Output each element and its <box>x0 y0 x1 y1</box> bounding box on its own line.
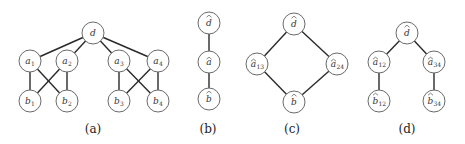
nodes-layer: da1a2a3a4b1b2b3b4dabda13a24bda12a34b12b3… <box>19 12 445 113</box>
node-label: a <box>62 56 67 66</box>
node-subscript: 2 <box>68 60 72 67</box>
node-subscript: 34 <box>434 61 442 68</box>
node-a13: a13 <box>246 53 268 75</box>
node-a4: a4 <box>147 50 169 72</box>
graph-diagram: da1a2a3a4b1b2b3b4dabda13a24bda12a34b12b3… <box>0 0 465 144</box>
node-a2: a2 <box>56 50 78 72</box>
panel-c-nodes: da13a24b <box>246 13 348 113</box>
panel-b-nodes: dab <box>198 12 220 110</box>
node-a1: a1 <box>19 50 41 72</box>
node-label: d <box>291 19 297 29</box>
panel-d-nodes: da12a34b12b34 <box>368 22 445 112</box>
node-label: a <box>153 56 158 66</box>
node-label: a <box>114 56 119 66</box>
node-d: d <box>198 12 220 34</box>
node-b1: b1 <box>19 90 41 112</box>
caption-c: (c) <box>284 122 300 136</box>
panel-c-edges <box>257 24 337 102</box>
panel-a-nodes: da1a2a3a4b1b2b3b4 <box>19 22 169 112</box>
node-subscript: 2 <box>68 100 72 107</box>
node-label: d <box>90 28 96 38</box>
node-label: b <box>291 97 297 107</box>
node-subscript: 34 <box>434 100 442 107</box>
node-d: d <box>283 13 305 35</box>
node-d: d <box>82 22 104 44</box>
node-subscript: 3 <box>120 60 124 67</box>
node-b12: b12 <box>368 90 390 112</box>
caption-b: (b) <box>199 122 216 136</box>
node-label: d <box>404 28 410 38</box>
captions-layer: (a)(b)(c)(d) <box>85 122 416 136</box>
node-b: b <box>198 88 220 110</box>
node-label: a <box>25 56 30 66</box>
node-subscript: 24 <box>337 63 345 70</box>
caption-a: (a) <box>85 122 102 136</box>
node-label: b <box>206 94 212 104</box>
node-b4: b4 <box>147 90 169 112</box>
node-subscript: 4 <box>159 60 163 67</box>
node-d: d <box>396 22 418 44</box>
node-subscript: 4 <box>159 100 163 107</box>
node-subscript: 13 <box>257 63 265 70</box>
node-b34: b34 <box>423 90 445 112</box>
node-subscript: 12 <box>379 100 387 107</box>
node-b3: b3 <box>108 90 130 112</box>
node-a34: a34 <box>423 51 445 73</box>
node-subscript: 3 <box>120 100 124 107</box>
node-a: a <box>198 51 220 73</box>
node-b2: b2 <box>56 90 78 112</box>
node-subscript: 1 <box>31 100 35 107</box>
node-a3: a3 <box>108 50 130 72</box>
node-a12: a12 <box>368 51 390 73</box>
node-label: d <box>206 18 212 28</box>
caption-d: (d) <box>398 122 415 136</box>
node-b: b <box>283 91 305 113</box>
node-subscript: 1 <box>31 60 35 67</box>
node-a24: a24 <box>326 53 348 75</box>
node-subscript: 12 <box>379 61 387 68</box>
